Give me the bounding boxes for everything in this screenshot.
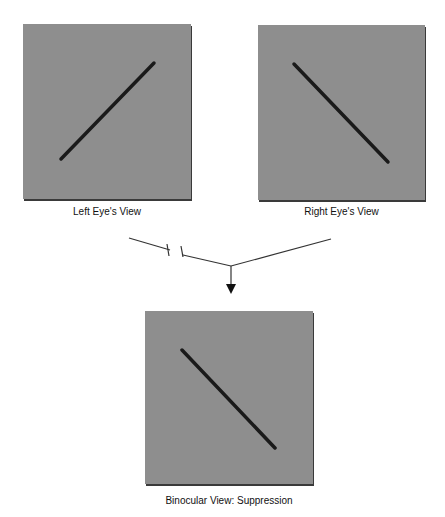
binocular-panel xyxy=(145,311,313,484)
arrow-down-icon xyxy=(226,284,236,294)
left-arm-segment-2 xyxy=(183,255,231,266)
diagonal-line-descending xyxy=(145,311,313,484)
left-arm-segment-1 xyxy=(129,238,170,250)
right-arm xyxy=(231,239,331,266)
break-mark-2 xyxy=(181,246,183,257)
binocular-caption: Binocular View: Suppression xyxy=(145,495,313,506)
